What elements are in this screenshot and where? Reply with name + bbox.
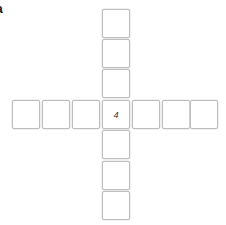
cell-right-3[interactable]	[190, 100, 218, 129]
panel-label: a	[0, 3, 3, 15]
cell-center[interactable]: 4	[102, 100, 130, 129]
cell-right-2[interactable]	[162, 100, 190, 129]
cell-left-3[interactable]	[12, 100, 40, 129]
cell-left-2[interactable]	[42, 100, 70, 129]
cell-left-1[interactable]	[72, 100, 100, 129]
cell-up-1[interactable]	[102, 69, 130, 98]
cell-up-2[interactable]	[102, 39, 130, 68]
cell-up-3[interactable]	[102, 9, 130, 38]
cell-right-1[interactable]	[132, 100, 160, 129]
cell-down-1[interactable]	[102, 130, 130, 159]
cell-down-2[interactable]	[102, 161, 130, 190]
cell-down-3[interactable]	[102, 191, 130, 220]
